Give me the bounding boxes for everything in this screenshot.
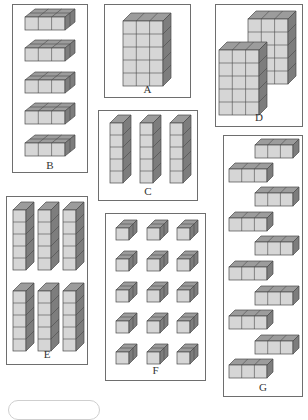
slabs-figure-b: [13, 5, 89, 174]
panel-label-g: G: [224, 381, 302, 393]
panel-f: F: [105, 213, 206, 381]
blocks-figure-d: [216, 5, 304, 128]
rods-figure-g: [224, 136, 304, 398]
panel-label-b: B: [13, 159, 87, 171]
panel-g: G: [223, 135, 303, 397]
columns-figure-e: [7, 197, 89, 366]
panel-c: C: [98, 110, 198, 201]
panel-label-a: A: [105, 83, 190, 95]
panel-d: D: [215, 4, 303, 127]
panel-label-d: D: [216, 111, 302, 123]
rounded-frame: [8, 400, 100, 420]
panel-label-c: C: [99, 185, 197, 197]
panel-e: E: [6, 196, 88, 365]
panel-label-e: E: [7, 348, 87, 360]
panel-b: B: [12, 4, 88, 173]
pairs-figure-f: [106, 214, 207, 382]
panel-label-f: F: [106, 364, 205, 376]
panel-a: A: [104, 4, 191, 98]
